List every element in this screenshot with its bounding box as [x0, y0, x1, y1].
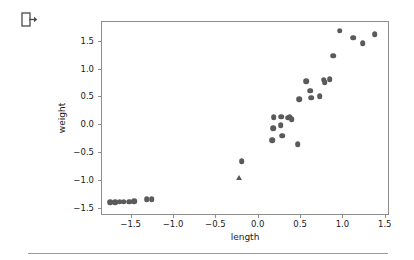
x-tick-label: −0.5 — [205, 219, 226, 229]
y-tick — [98, 152, 101, 153]
y-tick — [98, 96, 101, 97]
x-axis-label: length — [231, 232, 260, 242]
x-tick-label: −1.5 — [120, 219, 141, 229]
y-tick-label: −1.0 — [73, 175, 94, 185]
y-tick-label: 1.0 — [80, 64, 94, 74]
bottom-divider — [28, 253, 388, 254]
scatter-plot-figure: −1.5−1.0−0.50.00.51.01.5 −1.5−1.0−0.50.0… — [0, 0, 414, 248]
x-tick-label: 0.5 — [293, 219, 307, 229]
x-tick-label: 1.0 — [336, 219, 350, 229]
x-tick — [342, 215, 343, 218]
x-tick-label: 0.0 — [251, 219, 265, 229]
y-tick — [98, 124, 101, 125]
y-tick — [98, 69, 101, 70]
y-tick — [98, 41, 101, 42]
x-tick-label: 1.5 — [378, 219, 392, 229]
x-tick — [173, 215, 174, 218]
x-tick — [258, 215, 259, 218]
x-tick — [215, 215, 216, 218]
x-tick-label: −1.0 — [163, 219, 184, 229]
y-tick-label: 0.5 — [80, 91, 94, 101]
y-tick — [98, 180, 101, 181]
axes-frame — [101, 21, 389, 215]
x-tick — [385, 215, 386, 218]
y-tick-label: −0.5 — [73, 147, 94, 157]
y-tick-label: 0.0 — [80, 119, 94, 129]
x-tick — [131, 215, 132, 218]
y-tick — [98, 208, 101, 209]
y-tick-label: 1.5 — [80, 36, 94, 46]
y-tick-label: −1.5 — [73, 203, 94, 213]
y-axis-label: weight — [57, 103, 67, 133]
x-tick — [300, 215, 301, 218]
